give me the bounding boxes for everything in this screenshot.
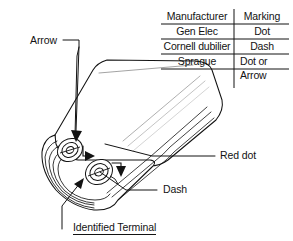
callout-label-dash: Dash xyxy=(163,184,187,195)
table-cell-marking-2-line1: Dot or xyxy=(240,56,267,67)
table-cell-marking-0: Dot xyxy=(254,26,270,37)
callout-label-identified-terminal: Identified Terminal xyxy=(73,222,156,235)
table-cell-manufacturer-1: Cornell dubilier xyxy=(164,41,231,52)
capacitor-body xyxy=(42,60,222,210)
capacitor-polarity-diagram: Manufacturer Marking Gen Elec Dot Cornel… xyxy=(0,0,293,241)
table-cell-manufacturer-2: Sprague xyxy=(178,56,216,67)
table-cell-marking-2-line2: Arrow xyxy=(240,70,266,81)
table-header-manufacturer: Manufacturer xyxy=(167,11,228,22)
table-cell-manufacturer-0: Gen Elec xyxy=(176,26,218,37)
table-header-marking: Marking xyxy=(244,11,281,22)
callout-label-arrow: Arrow xyxy=(30,35,57,46)
callout-label-red-dot: Red dot xyxy=(220,150,256,161)
table-cell-marking-1: Dash xyxy=(250,41,274,52)
